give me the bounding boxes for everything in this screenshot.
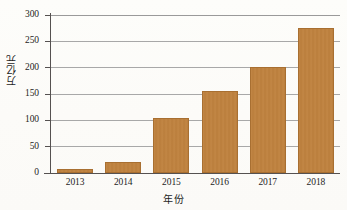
x-axis-tick-label: 2015 [147, 177, 195, 187]
x-axis-tick-label: 2013 [51, 177, 99, 187]
y-axis-tick-label: 100 [25, 114, 39, 124]
y-axis-tick-label: 0 [34, 167, 39, 177]
y-axis-title: 万亿元 [4, 54, 20, 86]
x-axis-tick-label: 2017 [244, 177, 292, 187]
x-axis-tick-label: 2014 [99, 177, 147, 187]
bar-2016 [202, 91, 238, 173]
y-axis-tick-label: 300 [25, 9, 39, 19]
bar-2015 [153, 118, 189, 173]
y-axis-tick-label: 250 [25, 35, 39, 45]
bar-2017 [250, 67, 286, 173]
x-axis-tick-label: 2016 [196, 177, 244, 187]
x-axis-title: 年份 [0, 191, 347, 206]
y-axis-tick-label: 150 [25, 88, 39, 98]
y-axis-tick-label: 50 [30, 141, 39, 151]
plot-area [51, 15, 340, 173]
bar-2013 [57, 169, 93, 173]
bar-chart-figure: 万亿元 050100150200250300 20132014201520162… [0, 0, 347, 210]
x-axis-tick-label: 2018 [292, 177, 340, 187]
bar-2018 [298, 28, 334, 173]
bar-2014 [105, 162, 141, 173]
y-axis-tick-label: 200 [25, 62, 39, 72]
